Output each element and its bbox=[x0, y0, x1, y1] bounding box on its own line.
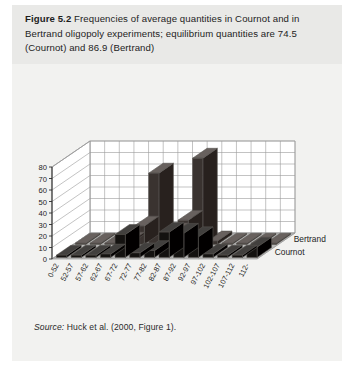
legend-label-cournot: Cournot bbox=[275, 247, 305, 257]
x-axis-tick-label: 52-57 bbox=[59, 262, 76, 283]
x-axis-tick-label: 112- bbox=[237, 261, 252, 278]
figure-caption: Figure 5.2 Frequencies of average quanti… bbox=[25, 12, 334, 56]
y-axis-tick-label: 30 bbox=[39, 221, 47, 230]
x-axis-tick-label: 67-72 bbox=[103, 262, 120, 283]
y-axis-tick-label: 70 bbox=[39, 175, 47, 184]
y-axis-tick-label: 60 bbox=[39, 186, 47, 195]
figure-label: Figure 5.2 bbox=[25, 13, 71, 24]
source-text: Huck et al. (2000, Figure 1). bbox=[64, 322, 176, 332]
y-axis-tick-label: 20 bbox=[39, 232, 47, 241]
x-axis-tick-label: 0-52 bbox=[46, 262, 61, 279]
page-frame-right bbox=[342, 0, 356, 370]
y-axis-tick-label: 80 bbox=[39, 163, 47, 172]
x-axis-tick-label: 82-87 bbox=[146, 262, 163, 283]
chart-container: 010203040506070800-5252-5757-6262-6767-7… bbox=[12, 62, 342, 312]
figure-page: Figure 5.2 Frequencies of average quanti… bbox=[0, 0, 356, 370]
bar-chart-3d: 010203040506070800-5252-5757-6262-6767-7… bbox=[12, 62, 342, 312]
y-axis-tick-label: 0 bbox=[43, 255, 47, 264]
figure-caption-band: Figure 5.2 Frequencies of average quanti… bbox=[12, 5, 342, 64]
source-note: Source: Huck et al. (2000, Figure 1). bbox=[34, 322, 176, 332]
x-axis-tick-label: 72-77 bbox=[117, 262, 134, 283]
legend-label-bertrand: Bertrand bbox=[294, 234, 326, 244]
y-axis-tick-label: 50 bbox=[39, 198, 47, 207]
y-axis-tick-label: 40 bbox=[39, 209, 47, 218]
y-axis-tick-label: 10 bbox=[39, 244, 47, 253]
page-frame-left bbox=[0, 0, 12, 370]
x-axis-tick-label: 77-82 bbox=[132, 262, 149, 283]
x-axis-tick-label: 57-62 bbox=[73, 262, 90, 283]
source-prefix: Source: bbox=[34, 322, 64, 332]
x-axis-tick-label: 87-92 bbox=[161, 262, 178, 283]
x-axis-tick-label: 62-67 bbox=[88, 262, 105, 283]
page-frame-bottom bbox=[0, 361, 356, 370]
